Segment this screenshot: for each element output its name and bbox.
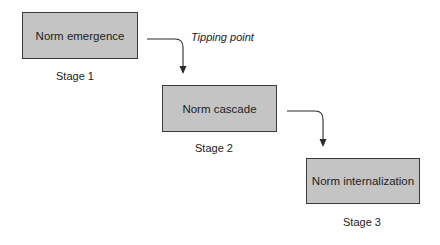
arrow-cascade-to-internalization xyxy=(287,111,327,147)
flow-arrows xyxy=(0,0,440,245)
arrow-emergence-to-cascade xyxy=(147,39,187,74)
